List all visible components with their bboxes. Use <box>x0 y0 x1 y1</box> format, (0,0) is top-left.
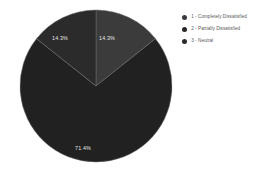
pie-slice-value-label: 71.4% <box>75 145 91 151</box>
legend-item-label: 2 - Partially Dissatisfied <box>191 27 240 32</box>
legend-item-label: 3 - Neutral <box>191 39 213 44</box>
legend-bullet-icon <box>182 39 187 44</box>
legend-item-2[interactable]: 2 - Partially Dissatisfied <box>182 23 268 35</box>
legend-bullet-icon <box>182 27 187 32</box>
legend-item-label: 1 - Completely Dissatisfied <box>191 15 247 20</box>
pie-svg: 14.3%71.4%14.3% <box>0 0 180 173</box>
pie-chart: 14.3%71.4%14.3% 1 - Completely Dissatisf… <box>0 0 268 173</box>
pie-slices <box>20 10 172 162</box>
legend-bullet-icon <box>182 15 187 20</box>
pie-plot-area: 14.3%71.4%14.3% <box>0 0 180 173</box>
legend-item-1[interactable]: 1 - Completely Dissatisfied <box>182 11 268 23</box>
legend-item-3[interactable]: 3 - Neutral <box>182 35 268 47</box>
pie-slice-value-label: 14.3% <box>52 35 68 41</box>
chart-legend: 1 - Completely Dissatisfied 2 - Partiall… <box>182 11 268 48</box>
pie-slice-value-label: 14.3% <box>99 35 115 41</box>
